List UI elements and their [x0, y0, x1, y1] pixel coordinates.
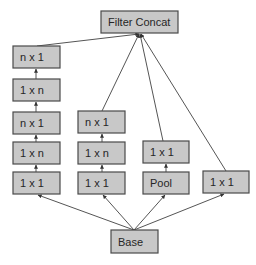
- edges: [36, 34, 226, 230]
- node-label: 1 x n: [20, 147, 44, 159]
- node-b4-l1: 1 x 1: [203, 171, 249, 193]
- node-label: 1 x n: [20, 84, 44, 96]
- node-label: 1 x 1: [210, 176, 234, 188]
- inception-module-diagram: Filter ConcatBasen x 11 x nn x 11 x n1 x…: [0, 0, 256, 265]
- node-label: 1 x 1: [85, 177, 109, 189]
- node-concat: Filter Concat: [101, 11, 178, 33]
- node-b1-l1: 1 x 1: [13, 172, 60, 194]
- node-b1-l5: n x 1: [13, 46, 60, 68]
- node-base: Base: [111, 230, 158, 253]
- node-label: n x 1: [20, 117, 44, 129]
- node-label: n x 1: [20, 51, 44, 63]
- node-label: 1 x 1: [150, 146, 174, 158]
- node-label: Pool: [150, 177, 172, 189]
- node-b2-l1: 1 x 1: [78, 172, 125, 194]
- edge-base-to-pool: [134, 195, 165, 230]
- node-b1-l3: n x 1: [13, 112, 60, 134]
- node-label: Filter Concat: [108, 16, 170, 28]
- node-b3-l2: 1 x 1: [143, 141, 189, 163]
- nodes: Filter ConcatBasen x 11 x nn x 11 x n1 x…: [13, 11, 249, 253]
- edge-b1-to-concat: [37, 34, 139, 46]
- node-b2-l3: n x 1: [78, 111, 125, 133]
- node-b1-l2: 1 x n: [13, 142, 60, 164]
- node-b3-l1: Pool: [143, 172, 189, 194]
- node-b1-l4: 1 x n: [13, 79, 60, 101]
- node-b2-l2: 1 x n: [78, 142, 125, 164]
- edge-b2-to-concat: [102, 34, 139, 111]
- node-label: 1 x n: [85, 147, 109, 159]
- node-label: 1 x 1: [20, 177, 44, 189]
- node-label: Base: [118, 236, 143, 248]
- edge-base-to-branch4: [134, 194, 224, 230]
- edge-base-to-branch1: [38, 195, 134, 230]
- node-label: n x 1: [85, 116, 109, 128]
